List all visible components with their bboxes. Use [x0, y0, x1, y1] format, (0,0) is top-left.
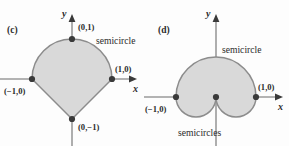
panel-d: (d) y x (1,0) (−1,0) semicircle semicirc…: [144, 0, 289, 146]
panel-d-annotation-semicircles: semicircles: [178, 127, 221, 138]
panel-c-point-left: [29, 76, 35, 82]
figure-container: (c) y x (0,1) (1,0) (−1,0) (0,−1) semici…: [0, 0, 289, 146]
panel-d-x-axis-label: x: [277, 101, 283, 112]
panel-c-y-axis-label: y: [61, 8, 67, 19]
panel-c-point-top: [69, 36, 75, 42]
panel-c-region: [32, 39, 112, 119]
panel-d-coord-right: (1,0): [258, 82, 275, 92]
panel-c: (c) y x (0,1) (1,0) (−1,0) (0,−1) semici…: [0, 0, 145, 146]
panel-c-x-axis-label: x: [132, 83, 138, 94]
panel-c-coord-bottom: (0,−1): [78, 122, 100, 132]
panel-c-point-bottom: [69, 116, 75, 122]
panel-d-coord-left: (−1,0): [145, 104, 167, 114]
panel-d-annotation-semicircle: semicircle: [222, 44, 261, 55]
panel-d-y-axis-label: y: [205, 8, 211, 19]
panel-d-point-origin: [213, 94, 219, 100]
panel-d-point-left: [173, 94, 179, 100]
panel-c-label: (c): [7, 25, 18, 36]
panel-c-point-right: [109, 76, 115, 82]
panel-d-label: (d): [158, 25, 170, 36]
panel-c-coord-top: (0,1): [78, 22, 95, 32]
panel-d-point-right: [253, 94, 259, 100]
panel-c-annotation-semicircle: semicircle: [96, 35, 135, 46]
panel-c-coord-right: (1,0): [115, 64, 132, 74]
panel-c-coord-left: (−1,0): [4, 86, 26, 96]
